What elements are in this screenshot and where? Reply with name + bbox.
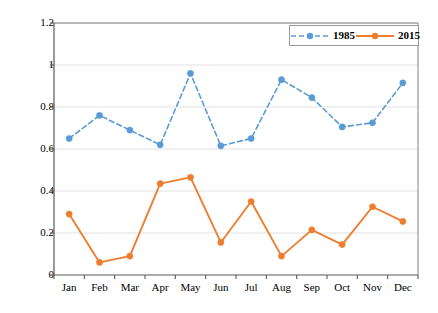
x-tick-label: Jul bbox=[245, 281, 258, 293]
data-point-2015-Sep[interactable] bbox=[309, 227, 315, 233]
data-point-2015-Mar[interactable] bbox=[127, 253, 133, 259]
series-line-2015 bbox=[69, 177, 403, 262]
data-point-2015-Oct[interactable] bbox=[339, 241, 345, 247]
x-tick-label: Jan bbox=[62, 281, 77, 293]
x-tick-label: Apr bbox=[152, 281, 169, 293]
x-tick-label: Sep bbox=[304, 281, 321, 293]
legend-label-1985: 1985 bbox=[333, 30, 355, 41]
legend-swatch-1985-icon bbox=[290, 30, 330, 42]
x-tick-label: Aug bbox=[272, 281, 291, 293]
data-point-1985-Jun[interactable] bbox=[218, 143, 224, 149]
chart-container: CDI value 00.20.40.60.811.2 JanFebMarApr… bbox=[0, 0, 438, 313]
legend-swatch-2015-icon bbox=[355, 30, 395, 42]
data-point-2015-Nov[interactable] bbox=[369, 204, 375, 210]
x-tick-label: Oct bbox=[334, 281, 350, 293]
legend-item-2015[interactable]: 2015 bbox=[355, 30, 420, 42]
data-point-1985-May[interactable] bbox=[187, 70, 193, 76]
data-point-2015-Jul[interactable] bbox=[248, 198, 254, 204]
legend-item-1985[interactable]: 1985 bbox=[290, 30, 355, 42]
data-point-1985-Dec[interactable] bbox=[400, 80, 406, 86]
data-point-2015-Feb[interactable] bbox=[96, 259, 102, 265]
data-point-1985-Jul[interactable] bbox=[248, 135, 254, 141]
x-tick-label: Jun bbox=[213, 281, 228, 293]
x-tick-label: May bbox=[180, 281, 200, 293]
data-point-2015-Jan[interactable] bbox=[66, 211, 72, 217]
series-layer bbox=[66, 70, 406, 265]
x-tick-label: Nov bbox=[363, 281, 382, 293]
x-tick-label: Mar bbox=[121, 281, 139, 293]
data-point-2015-Aug[interactable] bbox=[278, 253, 284, 259]
chart-legend: 1985 2015 bbox=[289, 25, 419, 46]
data-point-2015-Jun[interactable] bbox=[218, 239, 224, 245]
plot-area bbox=[0, 0, 438, 313]
data-point-1985-Mar[interactable] bbox=[127, 127, 133, 133]
gridlines bbox=[54, 23, 418, 233]
data-point-1985-Sep[interactable] bbox=[309, 94, 315, 100]
data-point-1985-Nov[interactable] bbox=[369, 120, 375, 126]
data-point-1985-Aug[interactable] bbox=[278, 77, 284, 83]
data-point-2015-Apr[interactable] bbox=[157, 181, 163, 187]
series-line-1985 bbox=[69, 73, 403, 145]
data-point-2015-Dec[interactable] bbox=[400, 218, 406, 224]
legend-label-2015: 2015 bbox=[398, 30, 420, 41]
data-point-1985-Jan[interactable] bbox=[66, 135, 72, 141]
data-point-1985-Feb[interactable] bbox=[96, 112, 102, 118]
data-point-2015-May[interactable] bbox=[187, 174, 193, 180]
data-point-1985-Oct[interactable] bbox=[339, 124, 345, 130]
data-point-1985-Apr[interactable] bbox=[157, 142, 163, 148]
x-tick-label: Dec bbox=[394, 281, 412, 293]
x-tick-label: Feb bbox=[91, 281, 108, 293]
